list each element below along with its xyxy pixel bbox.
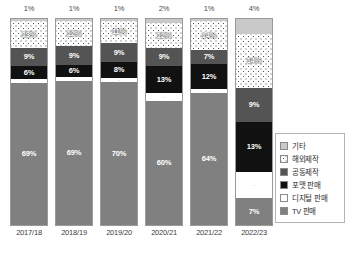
- segment-label: 12%: [202, 73, 216, 81]
- legend-item-디지털-판매[interactable]: 디지털 판매: [280, 191, 340, 204]
- legend-swatch-icon: [280, 181, 288, 189]
- segment-label: ·: [253, 182, 255, 188]
- bar-column-2021-22[interactable]: 1%1%14%7%12%·64%: [190, 4, 228, 226]
- bar-stack: 4%14%9%13%·7%: [235, 18, 273, 226]
- bar-stack: 2%12%9%13%·60%: [145, 18, 183, 226]
- chart-legend: 기타해외제작공동제작포맷 판매디지털 판매TV 판매: [275, 133, 345, 223]
- legend-swatch-icon: [280, 155, 288, 163]
- bar-stack: 1%14%7%12%·64%: [190, 18, 228, 226]
- segment-label: 7%: [204, 53, 214, 61]
- segment-포맷-판매[interactable]: 13%: [236, 122, 272, 172]
- legend-item-TV-판매[interactable]: TV 판매: [280, 204, 340, 217]
- bar-column-2018-19[interactable]: 1%1%12%9%6%·69%: [55, 4, 93, 226]
- segment-label: 69%: [67, 149, 81, 157]
- segment-label: 13%: [22, 31, 36, 39]
- legend-swatch-icon: [280, 168, 288, 176]
- legend-item-포맷-판매[interactable]: 포맷 판매: [280, 178, 340, 191]
- segment-해외제작[interactable]: 11%: [101, 21, 137, 43]
- bar-column-2019-20[interactable]: 1%1%11%9%8%·70%: [100, 4, 138, 226]
- segment-포맷-판매[interactable]: 6%: [11, 66, 47, 78]
- segment-TV-판매[interactable]: 7%: [236, 198, 272, 225]
- segment-공동제작[interactable]: 9%: [146, 48, 182, 67]
- segment-TV-판매[interactable]: 70%: [101, 82, 137, 225]
- bar-stack: 1%11%9%8%·70%: [100, 18, 138, 226]
- segment-TV-판매[interactable]: 64%: [191, 93, 227, 225]
- legend-label: 디지털 판매: [292, 192, 327, 203]
- x-tick-label: 2020/21: [145, 228, 183, 237]
- segment-TV-판매[interactable]: 69%: [56, 81, 92, 225]
- x-tick-label: 2019/20: [100, 228, 138, 237]
- segment-공동제작[interactable]: 7%: [191, 50, 227, 64]
- segment-해외제작[interactable]: 12%: [146, 23, 182, 48]
- segment-공동제작[interactable]: 9%: [236, 88, 272, 122]
- plot-area: 1%1%13%9%6%·69%1%1%12%9%6%·69%1%1%11%9%8…: [10, 4, 273, 226]
- segment-label: 9%: [249, 101, 259, 109]
- segment-공동제작[interactable]: 9%: [11, 48, 47, 67]
- segment-label: 14%: [202, 32, 216, 40]
- legend-item-기타[interactable]: 기타: [280, 139, 340, 152]
- segment-label: 7%: [249, 208, 259, 216]
- segment-label: 13%: [157, 76, 171, 84]
- segment-label: 8%: [114, 66, 124, 74]
- segment-label: 9%: [69, 52, 79, 60]
- bar-top-annotation: 2%: [145, 4, 183, 13]
- segment-디지털-판매[interactable]: ·: [236, 172, 272, 199]
- segment-공동제작[interactable]: 9%: [101, 43, 137, 61]
- segment-label: 6%: [69, 67, 79, 75]
- segment-디지털-판매[interactable]: ·: [146, 93, 182, 101]
- legend-label: TV 판매: [292, 205, 316, 216]
- bar-stack: 1%12%9%6%·69%: [55, 18, 93, 226]
- legend-label: 포맷 판매: [292, 179, 321, 190]
- bar-top-annotation: 1%: [100, 4, 138, 13]
- legend-swatch-icon: [280, 142, 288, 150]
- legend-swatch-icon: [280, 194, 288, 202]
- bar-column-2020-21[interactable]: 2%2%12%9%13%·60%: [145, 4, 183, 226]
- segment-label: 11%: [112, 28, 126, 36]
- bar-top-annotation: 1%: [10, 4, 48, 13]
- x-axis: 2017/182018/192019/202020/212021/222022/…: [10, 228, 273, 237]
- segment-포맷-판매[interactable]: 13%: [146, 66, 182, 93]
- segment-해외제작[interactable]: 12%: [56, 21, 92, 46]
- bar-column-2022-23[interactable]: 4%4%14%9%13%·7%: [235, 4, 273, 226]
- x-tick-label: 2017/18: [10, 228, 48, 237]
- legend-item-공동제작[interactable]: 공동제작: [280, 165, 340, 178]
- legend-label: 기타: [292, 140, 305, 151]
- legend-label: 해외제작: [292, 153, 319, 164]
- bar-top-annotation: 1%: [55, 4, 93, 13]
- segment-해외제작[interactable]: 13%: [11, 21, 47, 48]
- segment-label: 70%: [112, 150, 126, 158]
- segment-label: 12%: [157, 32, 171, 40]
- legend-label: 공동제작: [292, 166, 319, 177]
- segment-label: 64%: [202, 155, 216, 163]
- segment-해외제작[interactable]: 14%: [191, 21, 227, 50]
- bar-column-2017-18[interactable]: 1%1%13%9%6%·69%: [10, 4, 48, 226]
- segment-공동제작[interactable]: 9%: [56, 46, 92, 65]
- segment-label: ·: [163, 94, 165, 100]
- segment-해외제작[interactable]: 14%: [236, 34, 272, 87]
- stacked-bar-chart: 1%1%13%9%6%·69%1%1%12%9%6%·69%1%1%11%9%8…: [0, 0, 349, 258]
- segment-label: 9%: [159, 53, 169, 61]
- segment-label: 9%: [24, 53, 34, 61]
- segment-label: 6%: [24, 69, 34, 77]
- x-tick-label: 2021/22: [190, 228, 228, 237]
- segment-label: 69%: [22, 150, 36, 158]
- segment-포맷-판매[interactable]: 8%: [101, 62, 137, 78]
- legend-swatch-icon: [280, 207, 288, 215]
- segment-label: 9%: [114, 49, 124, 57]
- bar-stack: 1%13%9%6%·69%: [10, 18, 48, 226]
- segment-포맷-판매[interactable]: 6%: [56, 65, 92, 77]
- legend-item-해외제작[interactable]: 해외제작: [280, 152, 340, 165]
- x-tick-label: 2018/19: [55, 228, 93, 237]
- segment-label: 13%: [247, 143, 261, 151]
- segment-label: 60%: [157, 159, 171, 167]
- segment-TV-판매[interactable]: 69%: [11, 83, 47, 225]
- segment-label: 14%: [247, 57, 261, 65]
- segment-label: 12%: [67, 30, 81, 38]
- bar-top-annotation: 4%: [235, 4, 273, 13]
- segment-TV-판매[interactable]: 60%: [146, 101, 182, 225]
- segment-기타[interactable]: 4%: [236, 19, 272, 34]
- bar-top-annotation: 1%: [190, 4, 228, 13]
- segment-포맷-판매[interactable]: 12%: [191, 64, 227, 89]
- x-tick-label: 2022/23: [235, 228, 273, 237]
